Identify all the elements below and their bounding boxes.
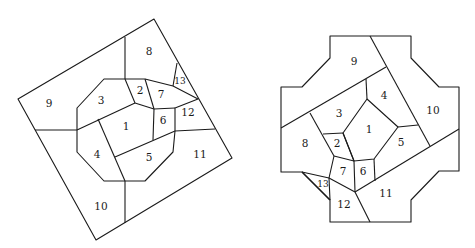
right-edge (343, 133, 354, 161)
region-label-8: 8 (302, 137, 309, 149)
region-label-4: 4 (94, 148, 101, 160)
region-label-1: 1 (123, 120, 130, 132)
right-edge (398, 125, 418, 127)
right-edge (334, 156, 354, 161)
region-label-9: 9 (351, 55, 358, 67)
region-label-4: 4 (381, 89, 388, 101)
region-label-6: 6 (360, 165, 367, 177)
region-label-5: 5 (398, 136, 405, 148)
left-edge (175, 129, 215, 131)
region-label-3: 3 (98, 94, 105, 106)
region-label-2: 2 (334, 137, 341, 149)
diagram-canvas: 12345678910111213 12345678910111213 (0, 0, 475, 248)
right-edge (354, 161, 355, 192)
left-partition-figure: 12345678910111213 (18, 19, 232, 240)
region-label-5: 5 (146, 151, 153, 163)
region-label-7: 7 (340, 165, 347, 177)
right-edge (355, 192, 370, 222)
region-label-1: 1 (366, 123, 373, 135)
region-label-13: 13 (174, 76, 186, 86)
region-label-12: 12 (181, 106, 194, 118)
region-label-11: 11 (379, 187, 392, 199)
left-edge (125, 79, 135, 103)
right-partition-figure: 12345678910111213 (281, 36, 459, 222)
region-label-11: 11 (193, 148, 206, 160)
left-edge (154, 108, 175, 109)
left-edge (135, 103, 154, 109)
region-label-10: 10 (426, 104, 439, 116)
region-label-13: 13 (317, 179, 329, 189)
right-edge (355, 129, 459, 192)
region-label-12: 12 (337, 198, 350, 210)
region-label-7: 7 (158, 88, 165, 100)
region-label-6: 6 (160, 114, 167, 126)
region-label-2: 2 (137, 84, 144, 96)
region-label-9: 9 (46, 97, 53, 109)
left-edge (145, 79, 154, 109)
right-edge (374, 159, 375, 181)
left-edge (98, 119, 125, 181)
right-edge (281, 67, 386, 128)
right-edge (366, 79, 367, 99)
left-edge (153, 109, 154, 140)
right-edge (323, 133, 343, 134)
region-label-10: 10 (94, 200, 107, 212)
region-label-3: 3 (336, 107, 343, 119)
region-label-8: 8 (146, 45, 153, 57)
right-edge (370, 36, 430, 146)
right-edge (310, 113, 334, 156)
